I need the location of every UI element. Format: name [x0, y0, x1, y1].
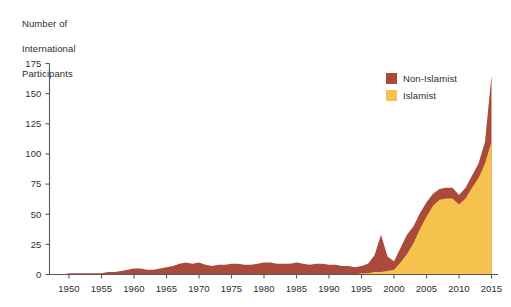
x-tick-label: 1960: [123, 283, 145, 294]
chart-legend: Non-Islamist Islamist: [386, 71, 506, 105]
chart-plot-area: 0255075100125150175 19501955196019651970…: [0, 0, 511, 307]
y-tick-label: 125: [25, 118, 41, 129]
legend-label-islamist: Islamist: [403, 90, 436, 101]
legend-item-islamist: Islamist: [386, 88, 506, 103]
y-tick-label: 100: [25, 148, 41, 159]
x-tick-label: 1980: [253, 283, 275, 294]
x-tick-label: 1955: [91, 283, 113, 294]
x-tick-label: 1990: [318, 283, 340, 294]
legend-item-non-islamist: Non-Islamist: [386, 71, 506, 86]
chart-container: Number of International Participants 025…: [0, 0, 511, 307]
x-tick-label: 1950: [58, 283, 80, 294]
x-tick-label: 1965: [156, 283, 178, 294]
x-tick-label: 2000: [383, 283, 405, 294]
x-tick-label: 1985: [286, 283, 308, 294]
legend-swatch-islamist: [386, 90, 397, 101]
x-tick-label: 1995: [351, 283, 373, 294]
y-tick-label: 175: [25, 58, 41, 69]
x-tick-label: 2005: [416, 283, 438, 294]
x-tick-label: 2015: [481, 283, 503, 294]
y-tick-label: 25: [31, 239, 42, 250]
x-tick-label: 1975: [221, 283, 243, 294]
legend-swatch-non-islamist: [386, 73, 397, 84]
x-tick-label: 1970: [188, 283, 210, 294]
y-tick-label: 50: [31, 209, 42, 220]
x-tick-label: 2010: [448, 283, 470, 294]
x-axis-ticks: 1950195519601965197019751980198519901995…: [58, 275, 502, 294]
legend-label-non-islamist: Non-Islamist: [403, 73, 457, 84]
y-tick-label: 0: [36, 269, 41, 280]
y-tick-label: 75: [31, 178, 42, 189]
y-tick-label: 150: [25, 88, 41, 99]
chart-series-group: [50, 76, 492, 275]
y-axis-ticks: 0255075100125150175: [25, 58, 49, 280]
